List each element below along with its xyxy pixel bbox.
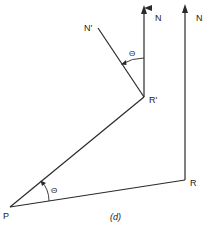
arrow-tip-icon [182,4,188,13]
label-n-rprime: N [155,13,162,23]
label-r: R [190,178,197,188]
diagram-canvas: N N N' Θ R' Θ R P (d) [0,0,205,225]
figure-caption: (d) [110,212,121,222]
label-nprime: N' [84,23,92,33]
segment-p-rprime [10,97,144,207]
label-theta-rprime: Θ [129,49,135,58]
arrow-tip-icon [141,5,147,14]
label-p: P [3,211,9,221]
navigation-diagram: N N N' Θ R' Θ R P (d) [0,0,205,225]
label-rprime: R' [149,95,157,105]
label-theta-p: Θ [51,186,57,195]
segment-rprime-nprime [98,28,144,97]
angle-arrow-icon [121,60,127,65]
angle-arrow-icon [41,181,47,187]
segment-p-r [10,180,185,207]
label-n-r: N [196,13,203,23]
